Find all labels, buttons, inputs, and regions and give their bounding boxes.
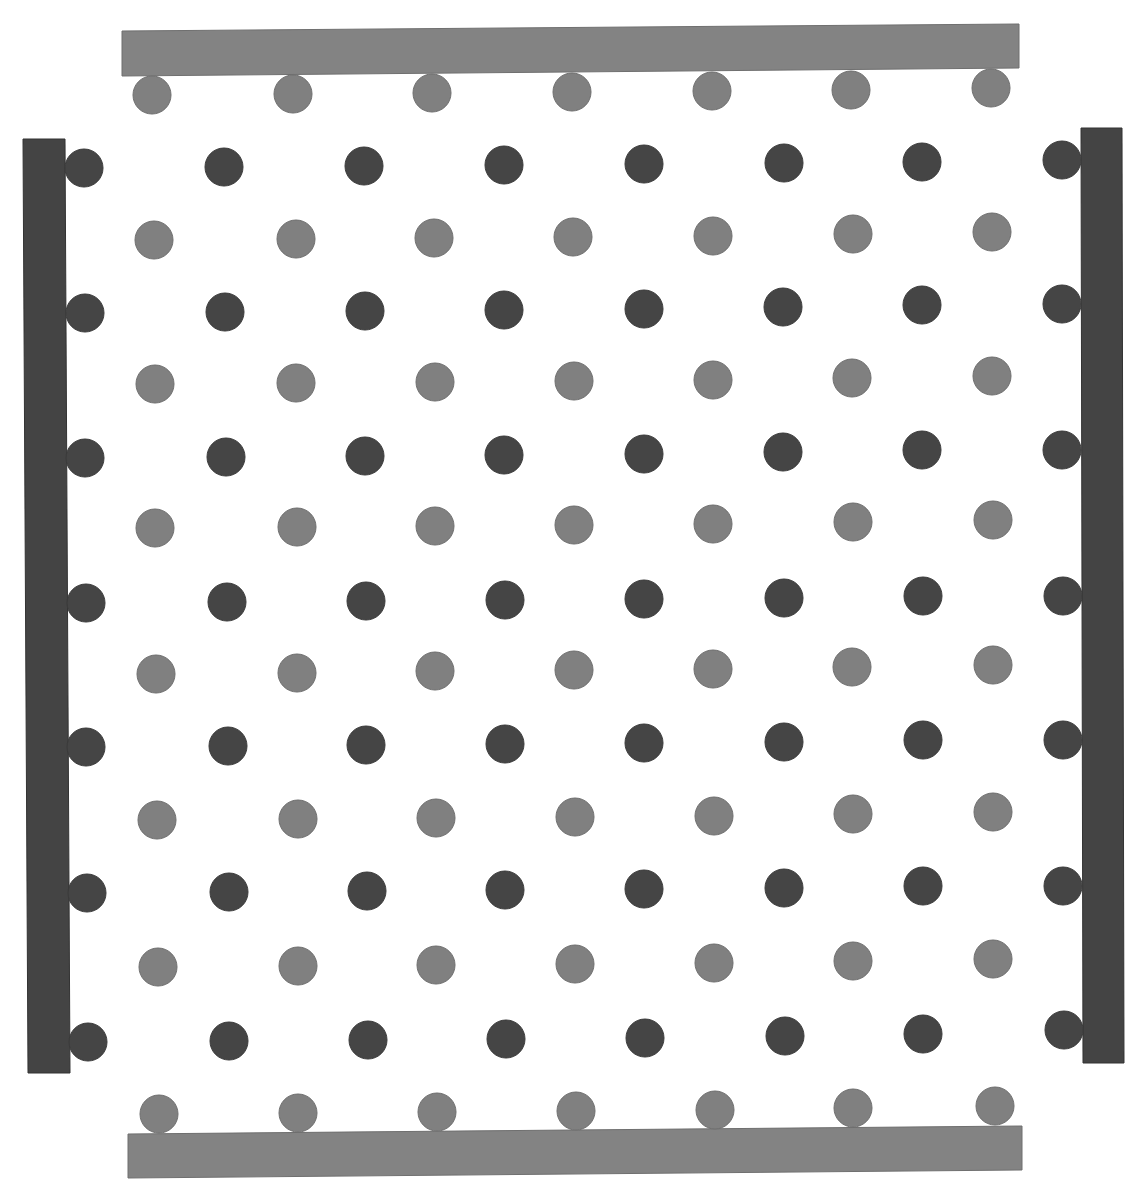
light-particle (140, 1095, 178, 1133)
light-particle (834, 1089, 872, 1127)
dark-particle (69, 1023, 107, 1061)
dark-particle (765, 579, 803, 617)
light-particle (833, 648, 871, 686)
dark-particle (625, 435, 663, 473)
plates-group (23, 24, 1124, 1178)
dark-particle (904, 721, 942, 759)
light-particles-group (133, 69, 1014, 1133)
right-plate (1081, 128, 1124, 1063)
dark-particle (765, 723, 803, 761)
light-particle (135, 221, 173, 259)
dark-particle (66, 294, 104, 332)
light-particle (554, 218, 592, 256)
dark-particle (903, 431, 941, 469)
particle-lattice-diagram (0, 0, 1146, 1200)
left-plate (23, 139, 70, 1073)
light-particle (277, 364, 315, 402)
light-particle (974, 501, 1012, 539)
dark-particle (1043, 141, 1081, 179)
dark-particle (903, 286, 941, 324)
dark-particle (346, 437, 384, 475)
dark-particle (205, 148, 243, 186)
dark-particle (210, 873, 248, 911)
dark-particle (764, 433, 802, 471)
light-particle (555, 362, 593, 400)
light-particle (278, 508, 316, 546)
dark-particle (65, 149, 103, 187)
light-particle (555, 506, 593, 544)
light-particle (136, 365, 174, 403)
dark-particle (67, 584, 105, 622)
light-particle (418, 1093, 456, 1131)
light-particle (834, 942, 872, 980)
dark-particle (486, 581, 524, 619)
dark-particle (903, 143, 941, 181)
light-particle (972, 69, 1010, 107)
light-particle (136, 509, 174, 547)
dark-particle (210, 1022, 248, 1060)
light-particle (138, 801, 176, 839)
light-particle (974, 940, 1012, 978)
dark-particle (486, 871, 524, 909)
light-particle (695, 944, 733, 982)
light-particle (976, 1087, 1014, 1125)
light-particle (139, 948, 177, 986)
dark-particles-group (65, 141, 1083, 1061)
dark-particle (765, 869, 803, 907)
light-particle (274, 75, 312, 113)
dark-particle (485, 436, 523, 474)
light-particle (557, 1092, 595, 1130)
light-particle (279, 947, 317, 985)
dark-particle (485, 146, 523, 184)
bottom-plate (128, 1126, 1022, 1178)
dark-particle (625, 870, 663, 908)
dark-particle (207, 438, 245, 476)
dark-particle (349, 1021, 387, 1059)
dark-particle (1043, 431, 1081, 469)
dark-particle (626, 1019, 664, 1057)
dark-particle (206, 293, 244, 331)
light-particle (695, 797, 733, 835)
light-particle (279, 1094, 317, 1132)
dark-particle (348, 872, 386, 910)
light-particle (133, 76, 171, 114)
dark-particle (625, 290, 663, 328)
dark-particle (209, 727, 247, 765)
light-particle (555, 651, 593, 689)
light-particle (278, 654, 316, 692)
dark-particle (764, 288, 802, 326)
light-particle (694, 505, 732, 543)
top-plate (122, 24, 1019, 76)
light-particle (416, 652, 454, 690)
light-particle (973, 213, 1011, 251)
dark-particle (1043, 285, 1081, 323)
dark-particle (68, 874, 106, 912)
dark-particle (904, 577, 942, 615)
dark-particle (67, 728, 105, 766)
light-particle (693, 72, 731, 110)
light-particle (277, 220, 315, 258)
light-particle (694, 650, 732, 688)
dark-particle (347, 582, 385, 620)
light-particle (556, 945, 594, 983)
light-particle (834, 215, 872, 253)
light-particle (694, 361, 732, 399)
light-particle (833, 359, 871, 397)
dark-particle (625, 724, 663, 762)
light-particle (973, 357, 1011, 395)
dark-particle (345, 147, 383, 185)
light-particle (974, 646, 1012, 684)
light-particle (556, 798, 594, 836)
light-particle (417, 946, 455, 984)
dark-particle (485, 291, 523, 329)
dark-particle (1044, 721, 1082, 759)
dark-particle (1045, 1011, 1083, 1049)
dark-particle (486, 725, 524, 763)
dark-particle (347, 726, 385, 764)
light-particle (416, 363, 454, 401)
dark-particle (765, 144, 803, 182)
light-particle (416, 507, 454, 545)
light-particle (974, 793, 1012, 831)
light-particle (413, 74, 451, 112)
light-particle (832, 71, 870, 109)
